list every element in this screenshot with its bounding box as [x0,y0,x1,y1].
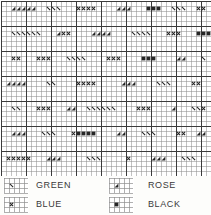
legend-label-green: GREEN [36,177,71,194]
stitch-chart-canvas [0,0,211,176]
stitch-chart [0,0,211,176]
backslash-icon [3,177,29,194]
legend-label-rose: ROSE [148,177,176,194]
filled-square-icon [108,196,134,213]
pattern-chart-page: GREEN BLUE ROSE BLACK [0,0,211,215]
cross-icon [3,196,29,213]
filled-triangle-icon [108,177,134,194]
legend-label-black: BLACK [148,196,181,213]
legend-label-blue: BLUE [36,196,62,213]
legend: GREEN BLUE ROSE BLACK [0,176,211,215]
